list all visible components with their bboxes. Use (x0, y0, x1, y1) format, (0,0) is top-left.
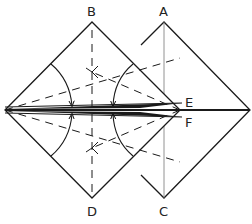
label-d: D (87, 204, 97, 219)
label-b: B (87, 4, 96, 19)
label-a: A (159, 4, 168, 19)
label-f: F (185, 115, 192, 130)
label-c: C (159, 204, 168, 219)
origami-diagram: B A E F D C (0, 0, 252, 224)
label-e: E (185, 95, 193, 110)
